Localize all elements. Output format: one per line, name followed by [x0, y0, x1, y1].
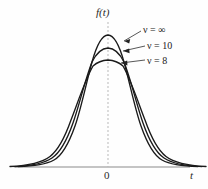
- curve-label-nu-8: ν = 8: [147, 56, 167, 66]
- x-axis-label: t: [190, 170, 193, 181]
- t-distribution-figure: f(t) 0 t ν = ∞ ν = 10 ν = 8: [0, 0, 208, 189]
- y-axis-label: f(t): [96, 7, 109, 18]
- plot-canvas: [0, 0, 208, 189]
- curve-label-nu-10: ν = 10: [147, 41, 172, 51]
- leader-nu-10: [123, 46, 145, 53]
- origin-tick-label: 0: [104, 170, 110, 181]
- leader-nu-infinity: [124, 31, 141, 44]
- curve-label-nu-infinity: ν = ∞: [143, 25, 165, 35]
